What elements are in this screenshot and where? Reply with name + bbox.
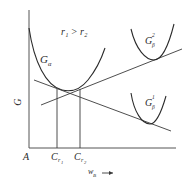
cr1-label: C r 1 — [51, 151, 63, 165]
x-axis-arrow-icon — [102, 171, 113, 175]
svg-text:α: α — [48, 60, 52, 67]
condition-label: r₁ > r₂ — [61, 26, 88, 37]
svg-text:G: G — [40, 53, 48, 65]
y-axis-label: G — [12, 98, 23, 105]
svg-text:β: β — [151, 104, 155, 110]
g-beta2-label: G 2 β — [145, 32, 155, 48]
g-beta1-label: G 1 β — [145, 94, 155, 110]
svg-text:β: β — [151, 42, 155, 48]
origin-label: A — [22, 151, 30, 162]
svg-text:B: B — [93, 173, 96, 178]
x-axis-label: w B — [88, 167, 96, 178]
svg-text:2: 2 — [152, 32, 155, 38]
svg-text:2: 2 — [84, 160, 87, 165]
svg-text:1: 1 — [61, 160, 63, 165]
g-alpha-label: G α — [40, 53, 52, 67]
cr2-label: C r 2 — [74, 151, 87, 165]
svg-text:1: 1 — [152, 94, 155, 100]
tangent-line-r2 — [41, 49, 182, 105]
svg-text:C: C — [51, 151, 58, 162]
svg-text:C: C — [74, 151, 81, 162]
gibbs-energy-diagram: r₁ > r₂ G α G 2 β G 1 β G A C r 1 C r 2 … — [0, 0, 192, 192]
